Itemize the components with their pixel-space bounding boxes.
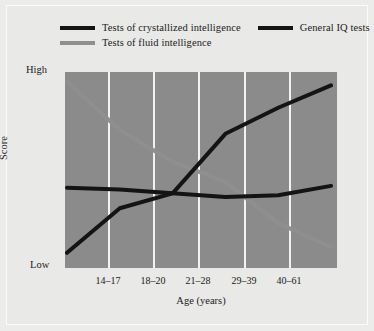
legend-label-crystallized: Tests of crystallized intelligence	[102, 22, 241, 33]
x-tick-label: 40–61	[277, 275, 302, 286]
chart-figure: Tests of crystallized intelligence Gener…	[0, 0, 374, 331]
legend-line-swatch-crystallized	[60, 26, 95, 30]
plot-area	[65, 72, 337, 268]
x-tick-label: 14–17	[96, 275, 121, 286]
x-tick-label: 29–39	[232, 275, 257, 286]
legend-label-general-iq: General IQ tests	[300, 22, 370, 33]
x-axis-title: Age (years)	[176, 295, 225, 306]
legend-item-fluid: Tests of fluid intelligence	[60, 37, 212, 48]
y-axis-low-label: Low	[30, 259, 49, 270]
y-axis-title: Score	[0, 136, 9, 160]
x-tick-label: 18–20	[141, 275, 166, 286]
y-axis-high-label: High	[26, 64, 47, 75]
legend-item-general-iq: General IQ tests	[258, 22, 370, 33]
x-tick-label: 21–28	[186, 275, 211, 286]
legend-line-swatch-general-iq	[258, 26, 293, 30]
legend-item-crystallized: Tests of crystallized intelligence	[60, 22, 241, 33]
legend-row-1: Tests of crystallized intelligence Gener…	[60, 20, 370, 35]
legend-label-fluid: Tests of fluid intelligence	[102, 37, 212, 48]
line-general-iq	[67, 186, 331, 197]
legend-row-2: Tests of fluid intelligence	[60, 35, 370, 50]
series-lines	[65, 72, 337, 268]
chart-legend: Tests of crystallized intelligence Gener…	[60, 20, 370, 50]
legend-line-swatch-fluid	[60, 41, 95, 45]
